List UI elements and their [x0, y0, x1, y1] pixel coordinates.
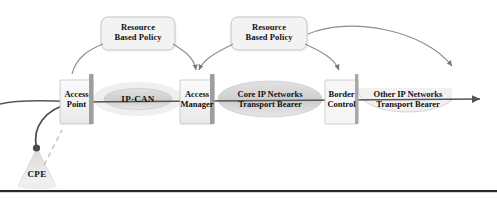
ip-can-cloud [93, 82, 183, 116]
policy-right-to-access-manager-arrow [199, 44, 233, 70]
policy-left-box [101, 17, 175, 50]
policy-right-box [231, 17, 307, 50]
policy-left-to-access-manager-arrow [173, 44, 196, 70]
policy-right-to-other-networks-arrow [308, 26, 452, 66]
access-point-gate [60, 74, 94, 124]
architecture-diagram: Resource Based Policy Resource Based Pol… [0, 0, 497, 199]
bottom-rule [0, 190, 497, 192]
cpe-cone [18, 148, 56, 189]
policy-left-to-access-point-curve [72, 44, 103, 74]
border-control-gate [325, 74, 358, 124]
policy-right-to-border-control-arrow [305, 44, 339, 70]
core-ip-networks-cloud [218, 81, 322, 117]
cpe-pointer-dashed [44, 130, 62, 165]
access-manager-gate [180, 74, 215, 124]
diagram-vector-layer [0, 0, 497, 199]
